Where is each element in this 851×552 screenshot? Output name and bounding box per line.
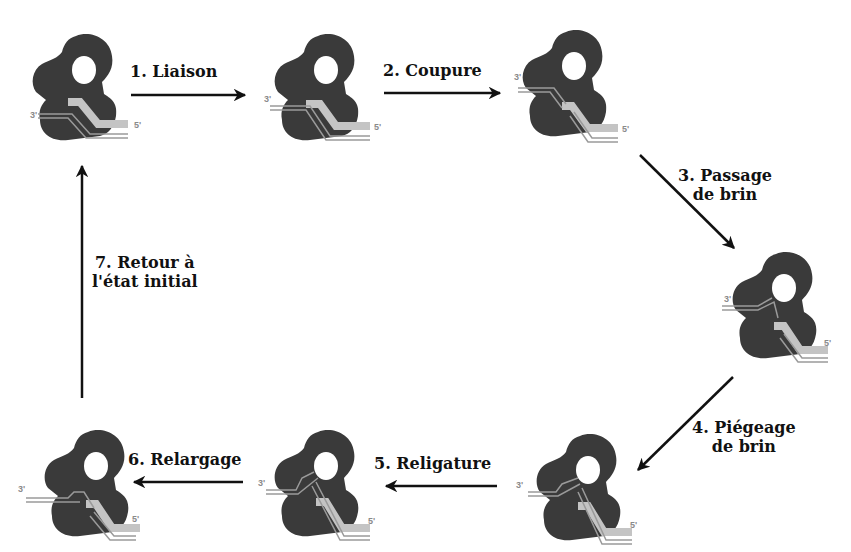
five-prime-label: 5'	[622, 124, 629, 134]
three-prime-label: 3'	[264, 94, 271, 104]
enzyme-state-released: 3' 5'	[18, 430, 140, 540]
three-prime-label: 3'	[516, 480, 523, 490]
five-prime-label: 5'	[824, 338, 831, 348]
step-7-label-line1: 7. Retour à	[92, 253, 198, 272]
topoisomerase-cycle-diagram: 3' 5' 3' 5' 3' 5'	[0, 0, 851, 552]
enzyme-state-passage: 3' 5'	[722, 252, 831, 362]
five-prime-label: 5'	[630, 520, 637, 530]
three-prime-label: 3'	[30, 110, 37, 120]
enzyme-state-religated: 3' 5'	[258, 430, 375, 540]
three-prime-label: 3'	[724, 294, 731, 304]
step-3-label-line1: 3. Passage	[678, 166, 772, 185]
step-5-label-line1: 5. Religature	[374, 454, 491, 473]
three-prime-label: 3'	[18, 484, 25, 494]
step-4-label-line1: 4. Piégeage	[692, 418, 796, 437]
five-prime-label: 5'	[374, 122, 381, 132]
step-3-label-line2: de brin	[678, 185, 772, 204]
three-prime-label: 3'	[258, 478, 265, 488]
step-3-label: 3. Passage de brin	[678, 166, 772, 204]
step-6-label-line1: 6. Relargage	[128, 450, 242, 469]
step-2-label: 2. Coupure	[383, 61, 482, 80]
five-prime-label: 5'	[368, 516, 375, 526]
step-5-label: 5. Religature	[374, 454, 491, 473]
enzyme-state-trapped: 3' 5'	[516, 434, 637, 544]
step-7-label-line2: l'état initial	[92, 272, 198, 291]
step-4-label: 4. Piégeage de brin	[692, 418, 796, 456]
five-prime-label: 5'	[134, 120, 141, 130]
step-1-label: 1. Liaison	[130, 62, 217, 81]
three-prime-label: 3'	[514, 72, 521, 82]
step-1-label-line1: 1. Liaison	[130, 62, 217, 81]
enzyme-state-initial: 3' 5'	[30, 34, 141, 140]
enzyme-state-cleaved: 3' 5'	[514, 30, 629, 142]
step-6-label: 6. Relargage	[128, 450, 242, 469]
step-2-label-line1: 2. Coupure	[383, 61, 482, 80]
five-prime-label: 5'	[132, 514, 139, 524]
step-7-label: 7. Retour à l'état initial	[92, 253, 198, 291]
enzyme-state-bound: 3' 5'	[264, 34, 381, 140]
step-4-label-line2: de brin	[692, 437, 796, 456]
